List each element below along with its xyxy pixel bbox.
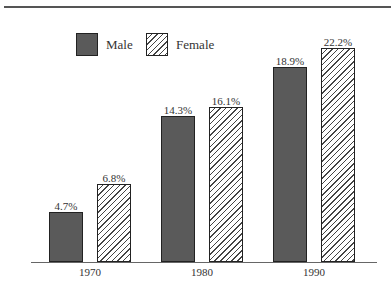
legend-female-swatch	[146, 33, 168, 56]
x-tick-label: 1970	[70, 266, 110, 278]
x-tick-label: 1990	[294, 266, 334, 278]
top-rule	[4, 6, 391, 8]
legend-male-label: Male	[106, 37, 133, 53]
value-label: 18.9%	[270, 55, 310, 67]
x-tick-label: 1980	[182, 266, 222, 278]
value-label: 22.2%	[318, 36, 358, 48]
bar-female-1980	[209, 107, 243, 262]
value-label: 16.1%	[206, 95, 246, 107]
bar-female-1970	[97, 184, 131, 262]
bar-male-1990	[273, 67, 307, 262]
value-label: 14.3%	[158, 104, 198, 116]
x-axis	[31, 262, 377, 263]
bar-female-1990	[321, 48, 355, 262]
legend-female-label: Female	[176, 37, 214, 53]
value-label: 6.8%	[94, 172, 134, 184]
legend-male-swatch	[76, 33, 98, 56]
bar-male-1980	[161, 116, 195, 262]
bar-male-1970	[49, 212, 83, 262]
value-label: 4.7%	[46, 200, 86, 212]
